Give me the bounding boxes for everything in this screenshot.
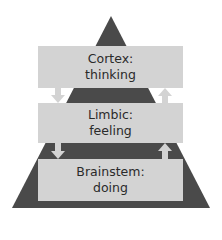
arrow-up-icon — [157, 143, 173, 159]
arrow-down-icon — [50, 88, 66, 103]
limbic-label: Limbic: — [38, 107, 183, 123]
arrow-down-icon — [50, 143, 66, 159]
cortex-box: Cortex: thinking — [38, 46, 183, 88]
brainstem-box: Brainstem: doing — [38, 159, 183, 201]
brainstem-label: Brainstem: — [38, 164, 183, 180]
arrow-up-icon — [157, 88, 173, 103]
limbic-function: feeling — [38, 123, 183, 139]
cortex-label: Cortex: — [38, 51, 183, 67]
cortex-function: thinking — [38, 67, 183, 83]
limbic-box: Limbic: feeling — [38, 103, 183, 143]
brainstem-function: doing — [38, 180, 183, 196]
